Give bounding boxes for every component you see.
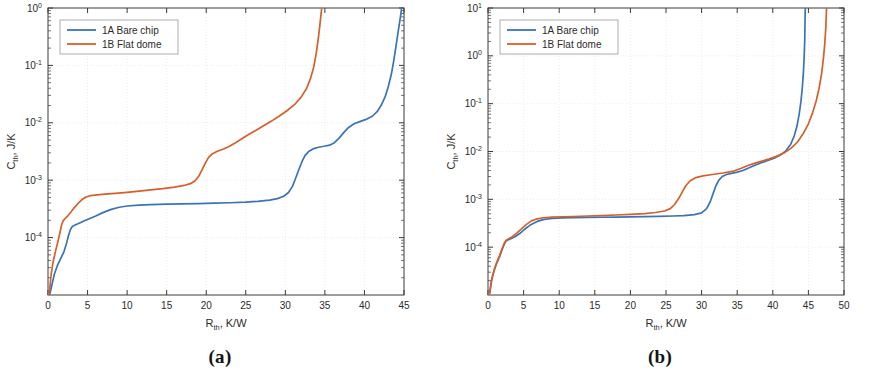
x-tick-label: 15 <box>589 300 601 311</box>
x-axis-title: Rth, K/W <box>645 317 687 332</box>
plot-a: 05101520253035404510-410-310-210-1100Rth… <box>0 0 440 372</box>
x-tick-label: 10 <box>122 300 134 311</box>
x-axis-title: Rth, K/W <box>205 317 247 332</box>
y-axis-title: Cth, J/K <box>445 133 460 170</box>
panel-a: 05101520253035404510-410-310-210-1100Rth… <box>0 0 440 372</box>
x-tick-label: 50 <box>838 300 850 311</box>
y-tick-label: 10-4 <box>25 231 42 243</box>
x-tick-label: 5 <box>521 300 527 311</box>
y-tick-label: 10-1 <box>465 97 482 109</box>
x-tick-label: 40 <box>359 300 371 311</box>
x-tick-label: 40 <box>767 300 779 311</box>
x-tick-label: 30 <box>280 300 292 311</box>
x-tick-label: 20 <box>201 300 213 311</box>
x-tick-label: 25 <box>240 300 252 311</box>
x-tick-label: 35 <box>319 300 331 311</box>
legend: 1A Bare chip1B Flat dome <box>60 20 178 54</box>
x-tick-label: 10 <box>554 300 566 311</box>
x-tick-label: 30 <box>696 300 708 311</box>
y-tick-label: 10-2 <box>465 145 482 157</box>
x-tick-label: 35 <box>732 300 744 311</box>
x-tick-label: 45 <box>803 300 815 311</box>
y-tick-label: 10-3 <box>25 174 42 186</box>
y-tick-label: 10-1 <box>25 59 42 71</box>
x-tick-label: 5 <box>85 300 91 311</box>
y-axis-title: Cth, J/K <box>5 133 20 170</box>
x-tick-label: 25 <box>660 300 672 311</box>
y-tick-label: 10-2 <box>25 116 42 128</box>
y-tick-label: 100 <box>27 2 42 14</box>
panel-b: 0510152025303540455010-410-310-210-11001… <box>440 0 880 372</box>
x-tick-label: 0 <box>45 300 51 311</box>
y-tick-label: 100 <box>467 49 482 61</box>
plot-b: 0510152025303540455010-410-310-210-11001… <box>440 0 880 372</box>
x-tick-label: 15 <box>161 300 173 311</box>
legend-label-2: 1B Flat dome <box>102 39 162 50</box>
x-tick-label: 0 <box>485 300 491 311</box>
legend-label-1: 1A Bare chip <box>542 25 599 36</box>
x-tick-label: 45 <box>398 300 410 311</box>
legend: 1A Bare chip1B Flat dome <box>500 20 618 54</box>
panel-caption: (a) <box>0 346 440 368</box>
figure-container: 05101520253035404510-410-310-210-1100Rth… <box>0 0 881 372</box>
legend-label-2: 1B Flat dome <box>542 39 602 50</box>
legend-label-1: 1A Bare chip <box>102 25 159 36</box>
y-tick-label: 10-3 <box>465 193 482 205</box>
y-tick-label: 101 <box>467 2 482 14</box>
panel-caption: (b) <box>440 346 880 368</box>
y-tick-label: 10-4 <box>465 241 482 253</box>
x-tick-label: 20 <box>625 300 637 311</box>
